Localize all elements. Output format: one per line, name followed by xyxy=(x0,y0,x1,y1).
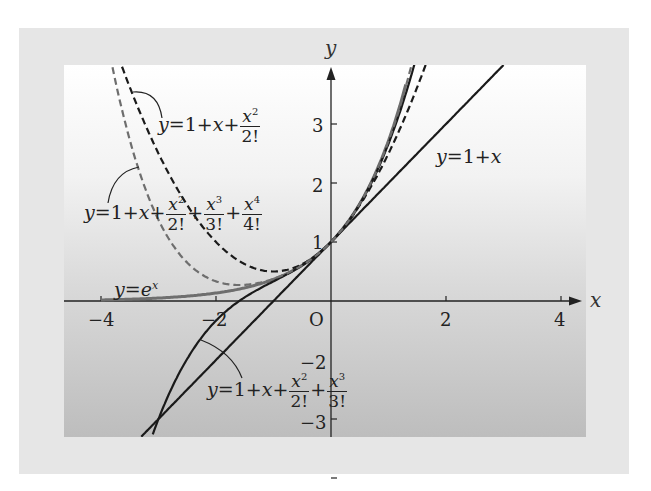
num-pow: 2 xyxy=(301,371,307,382)
den: 2! xyxy=(166,215,186,233)
label-eq: = xyxy=(95,201,111,223)
label-linear: y=1+x xyxy=(436,147,501,166)
label-eq: = xyxy=(218,378,234,400)
fraction-x3: x33! xyxy=(204,195,224,233)
label-term: 1+ xyxy=(234,378,262,400)
den: 3! xyxy=(204,215,224,233)
label-var: x xyxy=(491,145,502,167)
x-axis-arrow-icon xyxy=(569,297,582,306)
x-tick-neg4: −4 xyxy=(88,309,115,330)
fraction-x3: x33! xyxy=(327,372,347,410)
fraction-x2: x22! xyxy=(166,195,186,233)
label-taylor-order3: y=1+x+x22!+x33! xyxy=(207,372,348,410)
num-pow: 2 xyxy=(178,194,184,205)
label-pow: x xyxy=(152,279,158,292)
num-var: x xyxy=(329,371,339,391)
y-tick-3: 3 xyxy=(312,115,323,136)
den: 2! xyxy=(240,127,260,145)
label-var: x xyxy=(139,201,150,223)
label-var: x xyxy=(262,378,273,400)
label-y: y xyxy=(207,378,218,400)
num-var: x xyxy=(168,194,178,214)
num-var: x xyxy=(206,194,216,214)
y-tick-2: 2 xyxy=(312,175,323,196)
label-var: x xyxy=(213,113,224,135)
label-y: y xyxy=(114,278,125,300)
den: 2! xyxy=(289,392,309,410)
x-axis-label: x xyxy=(590,288,601,312)
label-term: 1+ xyxy=(111,201,139,223)
y-tick-1: 1 xyxy=(312,232,323,253)
label-plus: + xyxy=(272,378,288,400)
label-term: 1+ xyxy=(185,113,213,135)
y-axis-arrow-icon xyxy=(327,67,336,80)
num-var: x xyxy=(291,371,301,391)
fraction-x4: x44! xyxy=(242,195,262,233)
label-taylor-order4: y=1+x+x22!+x33!+x44! xyxy=(84,195,263,233)
label-plus: + xyxy=(225,201,241,223)
label-plus: + xyxy=(310,378,326,400)
y-tick-neg3: −3 xyxy=(300,412,327,433)
label-y: y xyxy=(84,201,95,223)
label-plus: + xyxy=(149,201,165,223)
label-exp: y=ex xyxy=(114,280,158,299)
fraction-x2: x22! xyxy=(240,107,260,145)
den: 4! xyxy=(242,215,262,233)
x-tick-2: 2 xyxy=(440,309,451,330)
label-base: e xyxy=(141,278,152,300)
label-y: y xyxy=(158,113,169,135)
label-taylor-order2: y=1+x+x22! xyxy=(158,107,261,145)
num-pow: 3 xyxy=(216,194,222,205)
label-eq: = xyxy=(169,113,185,135)
origin-label: O xyxy=(309,309,324,330)
label-plus: + xyxy=(223,113,239,135)
num-var: x xyxy=(244,194,254,214)
x-tick-neg2: −2 xyxy=(201,309,228,330)
num-var: x xyxy=(242,106,252,126)
num-pow: 2 xyxy=(252,106,258,117)
y-tick-neg2: −2 xyxy=(300,352,327,373)
label-eq: =1+ xyxy=(447,145,491,167)
fraction-x2: x22! xyxy=(289,372,309,410)
series-4-line xyxy=(113,54,415,285)
den: 3! xyxy=(327,392,347,410)
label-eq: = xyxy=(125,278,141,300)
y-axis-label: y xyxy=(325,36,336,60)
label-plus: + xyxy=(187,201,203,223)
label-y: y xyxy=(436,145,447,167)
num-pow: 3 xyxy=(339,371,345,382)
num-pow: 4 xyxy=(254,194,260,205)
x-tick-4: 4 xyxy=(554,309,565,330)
